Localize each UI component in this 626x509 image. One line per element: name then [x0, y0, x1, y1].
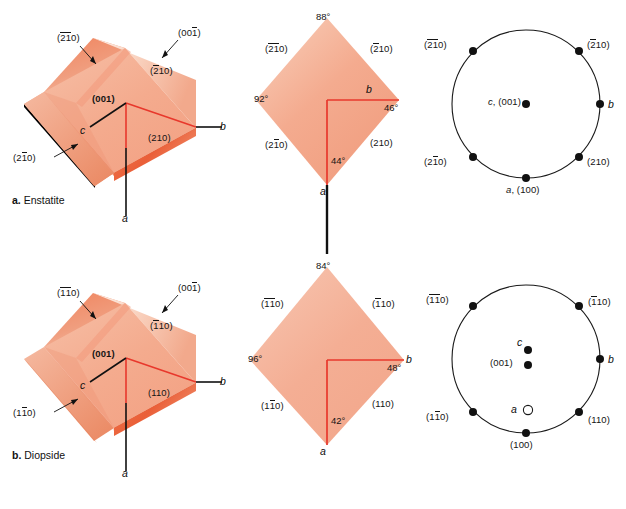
angle-bottom: 44°: [331, 155, 345, 166]
leader-top-right: [156, 38, 182, 64]
label-proj-lower-right: (110): [372, 399, 394, 409]
leader-lower-left: [52, 395, 84, 417]
label-diopside-3d-upper-left: (110): [57, 286, 80, 298]
leader-upper-left: [78, 44, 104, 70]
pole-c: [524, 346, 532, 354]
label-proj-lower-left: (210): [265, 138, 288, 150]
caption-enstatite: a. Enstatite: [12, 194, 65, 206]
label-stereo-c: c: [517, 336, 522, 348]
label-stereo-lower-right: (110): [588, 415, 610, 425]
axis-label-a: a: [122, 212, 128, 224]
label-proj-upper-right: (210): [370, 42, 393, 54]
angle-bottom: 42°: [331, 415, 345, 426]
leader-upper-left: [78, 299, 104, 325]
axis-label-a: a: [122, 467, 128, 479]
pole-upper-right: [575, 47, 583, 55]
enstatite-3d-svg: [0, 0, 232, 254]
label-stereo-center: c, (001): [488, 97, 521, 107]
pole-upper-left: [469, 302, 477, 310]
label-enstatite-3d-front-right: (210): [150, 64, 173, 76]
label-stereo-001: (001): [490, 358, 513, 368]
label-proj-lower-right: (210): [370, 138, 393, 148]
enstatite-basal-projection: 88° 92° 46° 44° (210) (210) (210) (210) …: [232, 0, 422, 254]
angle-top: 88°: [316, 11, 330, 22]
label-stereo-b: b: [608, 98, 614, 110]
diopside-projection-svg: [232, 255, 422, 509]
label-stereo-upper-left: (210): [424, 38, 447, 50]
diopside-stereonet-svg: [422, 255, 626, 509]
angle-left: 92°: [254, 93, 268, 104]
axis-label-a: a: [320, 185, 326, 197]
pole-b: [596, 100, 604, 108]
label-stereo-b: b: [608, 353, 614, 365]
pole-a-open-circle: [523, 405, 532, 414]
label-stereo-a: a: [511, 403, 517, 415]
leader-lower-left: [52, 140, 84, 162]
pole-lower-right: [575, 408, 583, 416]
crystallography-figure: (210) (001) (210) (001) (210): [0, 0, 626, 509]
pole-001: [524, 361, 532, 369]
label-diopside-3d-front-right: (110): [150, 319, 173, 331]
label-proj-upper-left: (210): [265, 42, 288, 54]
diopside-stereonet: c (001) b a (100) (110) (110) (110) (110…: [422, 255, 626, 509]
label-stereo-bottom: a, (100): [506, 185, 540, 195]
enstatite-stereonet: c, (001) b a, (100) (210) (210) (210) (2…: [422, 0, 626, 254]
caption-diopside: b. Diopside: [12, 449, 65, 461]
axis-label-b: b: [406, 353, 412, 365]
axis-label-c: c: [80, 379, 85, 391]
diopside-3d-crystal: (110) (001) (110) (001) (110): [0, 255, 232, 509]
axis-label-c: c: [80, 124, 85, 136]
label-diopside-3d-lower-left: (110): [13, 406, 36, 418]
pole-upper-left: [469, 47, 477, 55]
label-enstatite-3d-lower-right: (210): [148, 133, 171, 143]
leader-top-right: [156, 293, 182, 319]
label-diopside-3d-lower-right: (110): [148, 388, 170, 398]
label-stereo-lower-left: (110): [426, 410, 449, 422]
enstatite-projection-svg: [232, 0, 422, 254]
pole-lower-left: [469, 153, 477, 161]
label-enstatite-3d-upper-left: (210): [57, 31, 80, 43]
label-stereo-lower-left: (210): [424, 155, 447, 167]
label-proj-lower-left: (110): [261, 399, 284, 411]
diopside-basal-projection: 84° 96° 48° 42° (110) (110) (110) (110) …: [232, 255, 422, 509]
label-stereo-bottom: (100): [510, 440, 533, 450]
label-diopside-3d-basal: (001): [92, 349, 115, 359]
pole-a-100: [522, 174, 530, 182]
label-stereo-lower-right: (210): [587, 157, 610, 167]
angle-top: 84°: [316, 260, 330, 271]
label-stereo-upper-left: (110): [426, 293, 449, 305]
angle-right: 46°: [384, 102, 398, 113]
label-stereo-upper-right: (210): [587, 38, 610, 50]
angle-right: 48°: [387, 362, 401, 373]
enstatite-3d-crystal: (210) (001) (210) (001) (210): [0, 0, 232, 254]
axis-label-b: b: [366, 83, 372, 95]
axis-label-b: b: [220, 120, 226, 132]
figure-row-diopside: (110) (001) (110) (001) (110): [0, 255, 626, 509]
diopside-3d-svg: [0, 255, 232, 509]
label-enstatite-3d-basal: (001): [92, 94, 115, 104]
angle-left: 96°: [248, 353, 262, 364]
pole-lower-right: [575, 153, 583, 161]
pole-upper-right: [575, 302, 583, 310]
pole-c-001: [522, 100, 530, 108]
pole-lower-left: [469, 408, 477, 416]
pole-b: [596, 355, 604, 363]
label-proj-upper-left: (110): [261, 297, 284, 309]
label-enstatite-3d-lower-left: (210): [13, 151, 36, 163]
figure-row-enstatite: (210) (001) (210) (001) (210): [0, 0, 626, 254]
label-enstatite-3d-top-right: (001): [178, 26, 201, 38]
label-proj-upper-right: (110): [372, 297, 395, 309]
axis-label-b: b: [220, 375, 226, 387]
pole-100: [522, 429, 530, 437]
label-stereo-upper-right: (110): [588, 295, 611, 307]
label-diopside-3d-top-right: (001): [178, 281, 201, 293]
axis-label-a: a: [320, 445, 326, 457]
